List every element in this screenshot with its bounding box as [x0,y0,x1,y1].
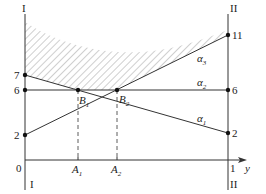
label-B1: B1 [79,94,89,109]
label-right-11: 11 [232,29,243,41]
point-B2 [115,88,119,92]
point-left-7 [23,73,27,77]
label-A2: A2 [110,163,122,178]
label-B2: B2 [119,93,130,108]
point-right-11 [226,33,230,37]
point-left-6 [23,88,27,92]
label-x-axis: y [244,162,250,174]
label-right-2: 2 [232,127,238,139]
point-right-2 [226,131,230,135]
label-alpha2: α2 [197,76,207,91]
label-left-6: 6 [14,84,20,96]
label-axis-II-top: II [230,2,238,14]
diagram-canvas: I I II II 0 1 y 7 6 2 11 6 2 α3 α2 α1 B1… [0,0,266,194]
point-B1 [76,88,80,92]
label-axis-I-bottom: I [30,178,34,190]
label-A1: A1 [71,163,82,178]
label-axis-I-top: I [22,2,26,14]
label-right-6: 6 [232,84,238,96]
point-left-2 [23,133,27,137]
label-alpha3: α3 [197,52,207,67]
label-right-end: 1 [230,162,236,174]
label-left-2: 2 [14,129,20,141]
label-origin: 0 [16,162,22,174]
label-axis-II-bottom: II [230,178,238,190]
point-right-6 [226,88,230,92]
label-left-7: 7 [14,69,20,81]
